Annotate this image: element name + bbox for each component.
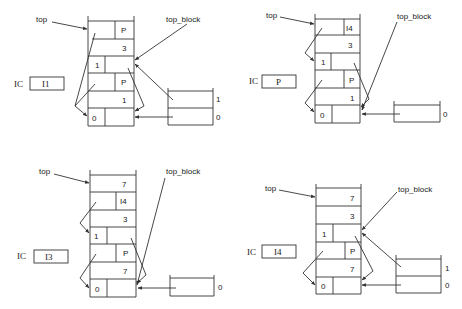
svg-text:1: 1 <box>445 264 450 273</box>
cell: 3 <box>123 215 128 224</box>
panel-3: top top_block IC I3 7 I4 3 1 P 7 0 <box>17 167 223 297</box>
cell: 0 <box>92 114 97 123</box>
svg-text:0: 0 <box>443 110 448 119</box>
top-label: top <box>39 167 51 176</box>
cell: 7 <box>123 267 128 276</box>
cell: P <box>121 78 126 87</box>
arrows <box>52 22 187 117</box>
ic-value: I1 <box>42 79 50 89</box>
ic-value: I4 <box>274 247 282 257</box>
side-box: 1 0 <box>396 255 450 293</box>
svg-text:1: 1 <box>216 95 221 104</box>
cell: I4 <box>120 197 127 206</box>
panel-1: top top_block IC I1 P 3 1 P 1 0 <box>14 15 221 126</box>
cell: 1 <box>95 61 100 70</box>
panel-4: top top_block IC I4 7 3 1 P 7 0 <box>247 184 450 294</box>
cell: 7 <box>350 194 355 203</box>
cell: 0 <box>321 282 326 291</box>
cell: 1 <box>122 96 127 105</box>
top-block-label: top_block <box>166 15 201 24</box>
cell: 1 <box>350 94 355 103</box>
cell: 3 <box>122 44 127 53</box>
cell: P <box>350 247 355 256</box>
arrows <box>54 174 176 288</box>
cell: 0 <box>320 111 325 120</box>
top-label: top <box>36 15 48 24</box>
svg-text:0: 0 <box>216 113 221 122</box>
stack: P 3 1 P 1 0 <box>88 16 134 126</box>
cell: P <box>121 26 126 35</box>
top-label: top <box>266 11 278 20</box>
svg-text:0: 0 <box>218 283 223 292</box>
top-block-label: top_block <box>398 185 433 194</box>
cell: 3 <box>350 212 355 221</box>
panel-2: top top_block IC P I4 3 1 P 1 0 <box>249 11 448 123</box>
cell: 1 <box>321 58 326 67</box>
ic-label: IC <box>17 251 26 261</box>
cell: 3 <box>348 41 353 50</box>
cell: 1 <box>322 230 327 239</box>
side-box: 0 <box>394 101 448 122</box>
top-block-label: top_block <box>166 167 201 176</box>
svg-text:0: 0 <box>445 281 450 290</box>
arrows <box>280 17 400 114</box>
stack-diagram: top top_block IC I1 P 3 1 P 1 0 <box>0 0 462 309</box>
cell: 0 <box>95 285 100 294</box>
cell: I4 <box>346 24 353 33</box>
stack: I4 3 1 P 1 0 <box>315 14 360 123</box>
ic-value: I3 <box>45 252 53 262</box>
stack: 7 I4 3 1 P 7 0 <box>90 170 136 297</box>
top-label: top <box>265 184 277 193</box>
ic-label: IC <box>249 76 258 86</box>
side-box: 0 <box>170 275 223 296</box>
cell: 7 <box>122 180 127 189</box>
arrows <box>279 190 401 285</box>
cell: P <box>123 249 128 258</box>
side-box: 1 0 <box>168 88 221 125</box>
cell: 1 <box>94 232 99 241</box>
cell: P <box>349 76 354 85</box>
ic-value: P <box>276 77 281 87</box>
ic-label: IC <box>247 247 256 257</box>
cell: 7 <box>350 265 355 274</box>
ic-label: IC <box>14 79 23 89</box>
top-block-label: top_block <box>397 12 432 21</box>
stack: 7 3 1 P 7 0 <box>316 184 361 294</box>
